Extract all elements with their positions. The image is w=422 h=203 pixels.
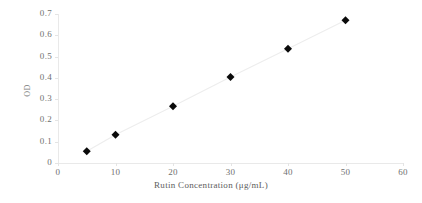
- x-axis-tick-label: 10: [101, 167, 131, 177]
- data-point-marker: [227, 73, 235, 81]
- x-axis-tick-mark: [403, 163, 404, 166]
- x-axis-tick-label: 30: [216, 167, 246, 177]
- x-axis-tick-label: 20: [158, 167, 188, 177]
- x-axis-tick-mark: [288, 163, 289, 166]
- x-axis-tick-mark: [116, 163, 117, 166]
- x-axis-tick-mark: [346, 163, 347, 166]
- y-axis-tick-label: 0.2: [26, 114, 52, 124]
- y-axis-tick-label: 0.7: [26, 8, 52, 18]
- y-axis-tick-label: 0.4: [26, 72, 52, 82]
- data-point-marker: [83, 147, 91, 155]
- series-line: [87, 20, 346, 151]
- y-axis-tick-label: 0.1: [26, 136, 52, 146]
- y-axis-tick-label: 0.5: [26, 51, 52, 61]
- x-axis-tick-label: 40: [273, 167, 303, 177]
- x-axis-tick-mark: [58, 163, 59, 166]
- x-axis-tick-label: 0: [43, 167, 73, 177]
- data-series-layer: [58, 14, 403, 163]
- chart-container: OD 00.10.20.30.40.50.60.7 0102030405060 …: [0, 0, 422, 203]
- x-axis-tick-mark: [231, 163, 232, 166]
- x-axis-tick-label: 60: [388, 167, 418, 177]
- x-axis-tick-label: 50: [331, 167, 361, 177]
- data-point-marker: [284, 45, 292, 53]
- x-axis-tick-mark: [173, 163, 174, 166]
- data-point-marker: [112, 131, 120, 139]
- series-marker-group: [83, 16, 350, 155]
- plot-area: 00.10.20.30.40.50.60.7 0102030405060: [58, 14, 403, 163]
- x-axis-title: Rutin Concentration (μg/mL): [0, 180, 422, 190]
- data-point-marker: [342, 16, 350, 24]
- y-axis-tick-label: 0: [26, 157, 52, 167]
- y-axis-tick-label: 0.6: [26, 29, 52, 39]
- y-axis-tick-label: 0.3: [26, 93, 52, 103]
- data-point-marker: [169, 102, 177, 110]
